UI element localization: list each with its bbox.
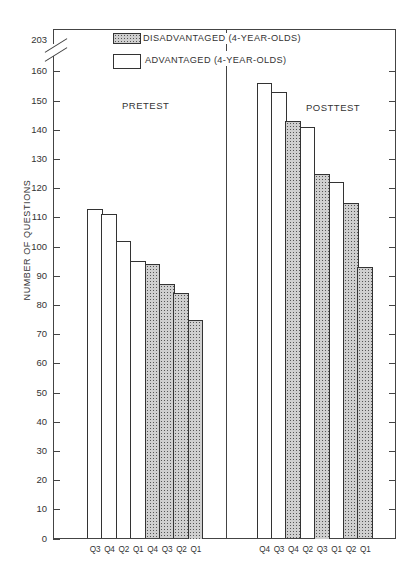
bar-pretest-advantaged-q4	[101, 214, 117, 538]
y-tick-label: 10	[17, 504, 47, 514]
y-tick-right	[389, 480, 396, 481]
legend-label-disadvantaged: DISADVANTAGED (4-YEAR-OLDS)	[141, 33, 303, 43]
y-axis-left	[53, 29, 54, 539]
x-category-label: Q1	[131, 545, 146, 554]
bar-posttest-advantaged-q3	[271, 92, 287, 539]
bar-posttest-advantaged-q4	[257, 83, 273, 539]
x-category-label: Q3	[315, 545, 330, 554]
y-tick-left	[53, 188, 60, 189]
y-tick-label: 50	[17, 388, 47, 398]
y-tick-left	[53, 451, 60, 452]
bar-posttest-advantaged-q2	[300, 127, 316, 539]
y-tick-left	[53, 363, 60, 364]
y-tick-label: 60	[17, 358, 47, 368]
bar-posttest-disadvantaged-q3	[314, 174, 330, 539]
x-category-label: Q1	[358, 545, 373, 554]
bar-pretest-disadvantaged-q1	[188, 320, 204, 539]
y-tick-right	[389, 217, 396, 218]
y-tick-left	[53, 101, 60, 102]
panel-divider-mid	[226, 44, 227, 51]
x-category-label: Q2	[343, 545, 358, 554]
y-tick-left	[53, 130, 60, 131]
bar-pretest-advantaged-q3	[87, 209, 103, 539]
y-tick-left	[53, 334, 60, 335]
x-category-label: Q4	[102, 545, 117, 554]
y-tick-label: 30	[17, 446, 47, 456]
y-tick-left	[53, 480, 60, 481]
y-tick-label: 130	[17, 154, 47, 164]
x-category-label: Q3	[88, 545, 103, 554]
y-tick-right	[389, 422, 396, 423]
y-tick-right	[389, 276, 396, 277]
y-tick-label: 150	[17, 96, 47, 106]
x-category-label: Q2	[300, 545, 315, 554]
y-tick-right	[389, 451, 396, 452]
y-tick-label: 160	[17, 66, 47, 76]
legend-swatch-advantaged	[113, 54, 141, 69]
y-tick-right	[389, 363, 396, 364]
y-axis-label: NUMBER OF QUESTIONS	[22, 180, 32, 301]
pretest-label: PRETEST	[122, 100, 169, 111]
y-tick-right	[389, 159, 396, 160]
y-tick-right	[389, 101, 396, 102]
plot-frame-top	[53, 29, 396, 30]
y-tick-right	[389, 509, 396, 510]
bar-pretest-advantaged-q1	[130, 261, 146, 538]
y-tick-right	[389, 188, 396, 189]
bar-posttest-disadvantaged-q1	[357, 267, 373, 539]
y-tick-left	[53, 276, 60, 277]
bar-pretest-disadvantaged-q4	[145, 264, 161, 538]
y-tick-right	[389, 130, 396, 131]
y-tick-label: 80	[17, 300, 47, 310]
bar-posttest-disadvantaged-q4	[285, 121, 301, 539]
y-tick-left	[53, 305, 60, 306]
y-tick-label: 0	[17, 534, 47, 544]
y-tick-left	[53, 422, 60, 423]
bar-pretest-disadvantaged-q2	[173, 293, 189, 538]
y-tick-left	[53, 217, 60, 218]
bar-pretest-advantaged-q2	[116, 241, 132, 539]
posttest-label: POSTTEST	[306, 102, 360, 113]
y-tick-left	[53, 71, 60, 72]
y-tick-left	[53, 509, 60, 510]
x-category-label: Q4	[257, 545, 272, 554]
y-tick-right	[389, 334, 396, 335]
axis-break-mark	[45, 38, 68, 53]
y-tick-label: 20	[17, 475, 47, 485]
y-tick-label: 70	[17, 329, 47, 339]
y-tick-right	[389, 247, 396, 248]
y-tick-left	[53, 247, 60, 248]
panel-divider	[226, 66, 227, 538]
y-tick-left	[53, 539, 60, 540]
y-tick-label: 140	[17, 125, 47, 135]
x-category-label: Q3	[160, 545, 175, 554]
bar-chart: 0102030405060708090100110120130140150160…	[0, 0, 418, 566]
legend-label-advantaged: ADVANTAGED (4-YEAR-OLDS)	[143, 55, 288, 65]
y-tick-left	[53, 393, 60, 394]
axis-break-label: 203	[17, 35, 47, 45]
x-category-label: Q4	[286, 545, 301, 554]
bar-pretest-disadvantaged-q3	[159, 284, 175, 538]
y-tick-left	[53, 159, 60, 160]
y-tick-label: 40	[17, 417, 47, 427]
bar-posttest-advantaged-q1	[329, 182, 345, 538]
bar-posttest-disadvantaged-q2	[343, 203, 359, 539]
x-category-label: Q3	[271, 545, 286, 554]
x-category-label: Q1	[188, 545, 203, 554]
y-tick-right	[389, 393, 396, 394]
y-tick-right	[389, 305, 396, 306]
x-category-label: Q2	[116, 545, 131, 554]
x-category-label: Q2	[174, 545, 189, 554]
legend-swatch-disadvantaged	[113, 33, 141, 44]
x-category-label: Q1	[329, 545, 344, 554]
x-category-label: Q4	[145, 545, 160, 554]
y-tick-right	[389, 71, 396, 72]
y-axis-right	[395, 29, 396, 539]
